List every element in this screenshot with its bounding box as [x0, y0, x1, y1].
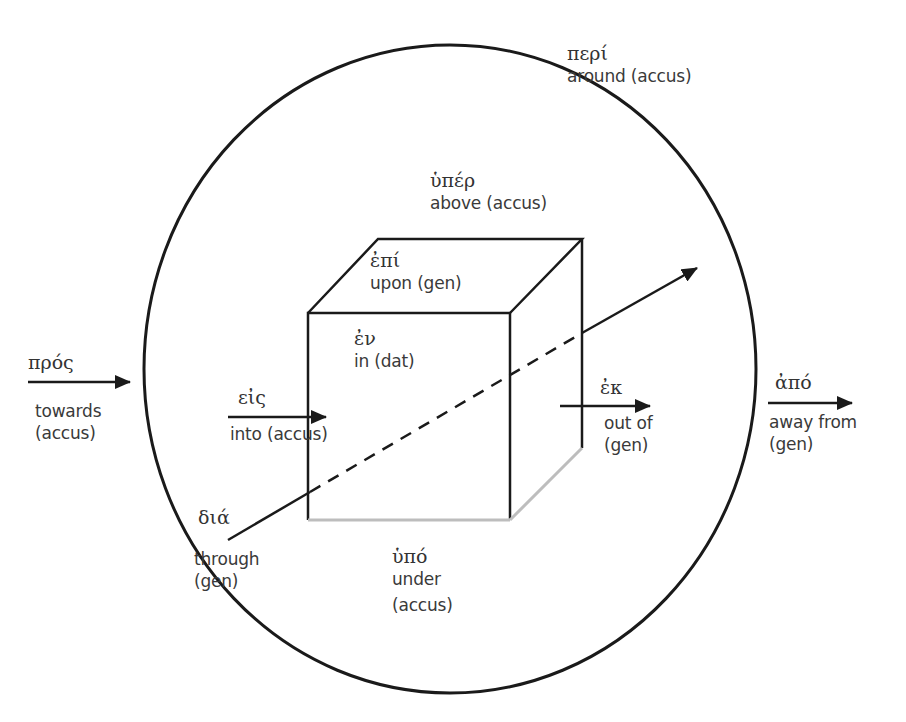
greek-pros: πρός: [28, 350, 74, 374]
through-line-entry: [228, 492, 310, 540]
english-dia: through: [194, 548, 259, 570]
label-pros-english: towards (accus): [35, 400, 101, 444]
greek-apo: ἀπό: [775, 370, 812, 394]
label-hyper: ὑπέρ above (accus): [430, 168, 547, 214]
label-ek-english: out of (gen): [604, 412, 652, 456]
greek-hyper: ὑπέρ: [430, 168, 547, 192]
english-hyper: above (accus): [430, 192, 547, 214]
label-en: ἐν in (dat): [354, 326, 414, 372]
english-eis: into (accus): [230, 423, 328, 445]
through-line-dashed: [310, 333, 582, 492]
case-apo: (gen): [769, 433, 857, 455]
case-pros: (accus): [35, 422, 101, 444]
greek-ek: ἐκ: [600, 375, 622, 399]
greek-epi: ἐπί: [370, 248, 461, 272]
label-ek-greek: ἐκ: [600, 375, 622, 399]
cube-bottom-right-edge: [510, 448, 582, 520]
label-peri: περί around (accus): [567, 41, 691, 87]
label-hypo: ὑπό under (accus): [392, 544, 453, 616]
label-dia-english: through (gen): [194, 548, 259, 592]
label-epi: ἐπί upon (gen): [370, 248, 461, 294]
greek-hypo: ὑπό: [392, 544, 453, 568]
greek-peri: περί: [567, 41, 691, 65]
english-peri: around (accus): [567, 65, 691, 87]
case-hypo: (accus): [392, 594, 453, 616]
label-dia-greek: διά: [198, 505, 230, 529]
label-eis-english: into (accus): [230, 423, 328, 445]
english-en: in (dat): [354, 350, 414, 372]
english-apo: away from: [769, 411, 857, 433]
preposition-diagram: [0, 0, 906, 722]
label-pros-greek: πρός: [28, 350, 74, 374]
case-ek: (gen): [604, 434, 652, 456]
label-apo-greek: ἀπό: [775, 370, 812, 394]
english-ek: out of: [604, 412, 652, 434]
label-eis-greek: εἰς: [238, 385, 266, 409]
english-pros: towards: [35, 400, 101, 422]
english-epi: upon (gen): [370, 272, 461, 294]
through-line-exit: [582, 268, 697, 333]
label-apo-english: away from (gen): [769, 411, 857, 455]
greek-eis: εἰς: [238, 385, 266, 409]
greek-en: ἐν: [354, 326, 414, 350]
greek-dia: διά: [198, 505, 230, 529]
english-hypo: under: [392, 568, 453, 590]
case-dia: (gen): [194, 570, 259, 592]
through-line: [228, 268, 697, 540]
